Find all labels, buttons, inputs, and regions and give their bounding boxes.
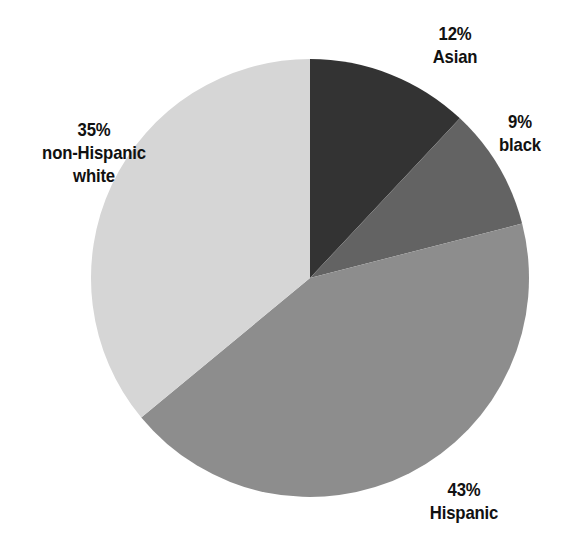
pie-label-non-hispanic-white-name-1: non-Hispanic	[13, 141, 175, 164]
pie-label-black-name: black	[476, 133, 564, 156]
pie-label-non-hispanic-white-percent: 35%	[13, 118, 175, 141]
pie-label-hispanic-percent: 43%	[408, 478, 521, 501]
pie-label-black: 9% black	[476, 110, 564, 156]
pie-label-asian: 12% Asian	[399, 22, 512, 68]
pie-chart-figure: 12% Asian 9% black 43% Hispanic 35% non-…	[0, 0, 572, 546]
pie-label-asian-percent: 12%	[399, 22, 512, 45]
pie-chart-graphic	[0, 0, 572, 546]
pie-label-hispanic: 43% Hispanic	[408, 478, 521, 524]
pie-label-non-hispanic-white: 35% non-Hispanic white	[13, 118, 175, 187]
pie-label-asian-name: Asian	[399, 45, 512, 68]
pie-label-non-hispanic-white-name-2: white	[13, 164, 175, 187]
pie-label-black-percent: 9%	[476, 110, 564, 133]
pie-label-hispanic-name: Hispanic	[408, 501, 521, 524]
